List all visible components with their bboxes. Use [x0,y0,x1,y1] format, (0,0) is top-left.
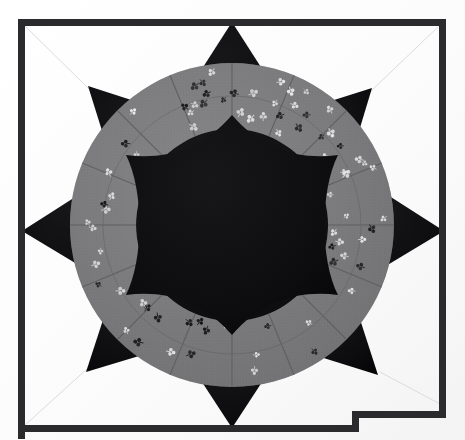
frame-edge-left [18,19,25,439]
frame-edge-right [439,19,446,411]
frame-edge-top [18,19,446,26]
frame-edge-bottom [18,425,359,432]
quilt-photo-stage: Photograph of an eight-pointed patchwork… [0,0,465,440]
quilt-illustration [0,0,465,440]
frame-step-run [352,411,446,418]
